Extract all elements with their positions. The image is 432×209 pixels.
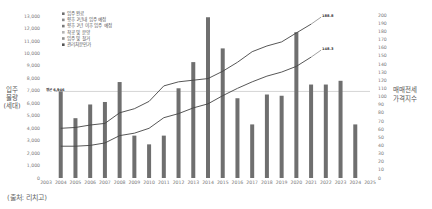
legend-label: 향후 2년내 입주 예정 — [67, 16, 106, 23]
right-tick-label: 50 — [378, 135, 384, 140]
supply-bar — [280, 96, 284, 178]
right-tick-label: 40 — [378, 143, 384, 148]
left-tick-label: 4,000 — [27, 126, 40, 131]
supply-bar — [147, 144, 151, 178]
legend: 입주 완료향후 2년내 입주 예정향후 2년 이후 입주 예정착공 및 분양입주… — [62, 10, 112, 48]
right-tick-label: 10 — [378, 167, 384, 172]
index-line — [61, 24, 311, 128]
x-tick-label: 2016 — [232, 180, 244, 185]
x-tick-label: 2009 — [129, 180, 141, 185]
legend-swatch — [62, 25, 65, 28]
left-tick-label: 1,000 — [27, 163, 40, 168]
legend-swatch — [62, 37, 65, 40]
left-tick-label: 10,000 — [24, 51, 40, 56]
right-axis-label: 매매전세 — [393, 85, 417, 94]
end-label-leader — [311, 17, 321, 24]
apartment-supply-chart: 01,0002,0003,0004,0005,0006,0007,0008,00… — [0, 0, 432, 209]
left-tick-label: 13,000 — [24, 14, 40, 19]
left-tick-label: 12,000 — [24, 26, 40, 31]
right-tick-label: 120 — [378, 78, 387, 83]
supply-bars — [59, 17, 358, 178]
supply-bar — [206, 17, 210, 178]
left-tick-label: 7,000 — [27, 88, 40, 93]
supply-bar — [235, 98, 239, 178]
right-tick-label: 80 — [378, 110, 384, 115]
supply-bar — [118, 82, 122, 178]
right-tick-label: 150 — [378, 53, 387, 58]
x-tick-label: 2025 — [364, 180, 376, 185]
supply-bar — [177, 88, 181, 178]
right-axis-ticks: 0102030405060708090100110120130140150160… — [378, 13, 387, 181]
source-note: (출처: 리치고) — [7, 192, 47, 202]
legend-label: 입주 및 철거 — [67, 35, 90, 42]
x-tick-label: 2011 — [158, 180, 170, 185]
right-tick-label: 90 — [378, 102, 384, 107]
x-tick-label: 2012 — [173, 180, 185, 185]
index-line — [61, 57, 311, 146]
left-axis-ticks: 01,0002,0003,0004,0005,0006,0007,0008,00… — [24, 14, 40, 181]
x-tick-label: 2023 — [335, 180, 347, 185]
right-tick-label: 100 — [378, 94, 387, 99]
supply-bar — [353, 124, 357, 178]
left-tick-label: 5,000 — [27, 113, 40, 118]
supply-bar — [324, 85, 328, 178]
left-axis-label: (세대) — [3, 101, 20, 110]
x-tick-label: 2007 — [99, 180, 111, 185]
supply-bar — [88, 104, 92, 178]
right-tick-label: 200 — [378, 13, 387, 18]
supply-bar — [191, 62, 195, 178]
right-tick-label: 140 — [378, 62, 387, 67]
left-tick-label: 11,000 — [24, 39, 40, 44]
supply-bar — [103, 102, 107, 178]
x-tick-label: 2018 — [261, 180, 273, 185]
x-tick-label: 2005 — [70, 180, 82, 185]
legend-label: 관리처분인가 — [67, 41, 92, 48]
x-tick-label: 2010 — [143, 180, 155, 185]
legend-label: 향후 2년 이후 입주 예정 — [67, 22, 112, 29]
x-tick-label: 2019 — [276, 180, 288, 185]
supply-bar — [265, 95, 269, 178]
left-tick-label: 2,000 — [27, 151, 40, 156]
legend-label: 입주 완료 — [67, 10, 84, 17]
x-tick-label: 2006 — [84, 180, 96, 185]
price-index-lines: 188.8148.3 — [61, 14, 334, 146]
x-tick-label: 2013 — [187, 180, 199, 185]
right-tick-label: 180 — [378, 29, 387, 34]
legend-swatch — [62, 43, 65, 46]
right-tick-label: 160 — [378, 45, 387, 50]
x-tick-label: 2020 — [291, 180, 303, 185]
right-tick-label: 0 — [378, 176, 381, 181]
x-tick-label: 2022 — [320, 180, 332, 185]
right-tick-label: 30 — [378, 151, 384, 156]
right-tick-label: 110 — [378, 86, 387, 91]
left-tick-label: 9,000 — [27, 63, 40, 68]
x-tick-label: 2015 — [217, 180, 229, 185]
right-tick-label: 170 — [378, 37, 387, 42]
left-axis-title: 입주물량(세대) — [3, 86, 20, 110]
end-label-leader — [311, 50, 321, 57]
left-tick-label: 3,000 — [27, 138, 40, 143]
left-tick-label: 8,000 — [27, 76, 40, 81]
right-axis-label: 가격지수 — [393, 94, 417, 103]
right-tick-label: 190 — [378, 21, 387, 26]
supply-bar — [221, 48, 225, 178]
supply-bar — [250, 124, 254, 178]
right-tick-label: 60 — [378, 127, 384, 132]
supply-bar — [162, 136, 166, 178]
x-tick-label: 2004 — [55, 180, 67, 185]
supply-bar — [59, 91, 63, 178]
supply-bar — [339, 81, 343, 178]
right-tick-label: 130 — [378, 70, 387, 75]
end-value-label: 188.8 — [322, 14, 334, 18]
end-value-label: 148.3 — [322, 47, 334, 51]
legend-swatch — [62, 12, 65, 15]
left-tick-label: 6,000 — [27, 101, 40, 106]
supply-bar — [132, 136, 136, 178]
legend-label: 착공 및 분양 — [67, 29, 91, 36]
x-tick-label: 2024 — [349, 180, 361, 185]
right-axis-title: 매매전세가격지수 — [393, 85, 417, 103]
right-tick-label: 20 — [378, 159, 384, 164]
supply-bar — [309, 85, 313, 178]
x-axis-ticks: 2003200420052006200720082009201020112012… — [40, 180, 376, 185]
supply-bar — [294, 32, 298, 178]
